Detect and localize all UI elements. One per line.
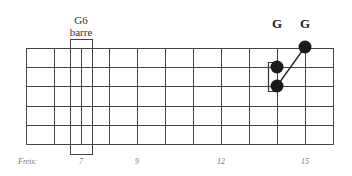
finger-dot [271, 61, 284, 74]
fret-number-7: 7 [79, 157, 84, 166]
fretboard-diagram: G6 barre G G Frets: 7 9 12 15 [0, 0, 352, 176]
note-label-g-2: G [300, 16, 310, 31]
barre-label-chord: G6 [74, 14, 88, 26]
note-label-g-1: G [272, 16, 282, 31]
strings [26, 49, 334, 145]
finger-dot [299, 41, 312, 54]
frets-label: Frets: [17, 157, 38, 166]
fret-number-15: 15 [301, 157, 309, 166]
fret-lines [27, 48, 334, 145]
fret-number-12: 12 [217, 157, 225, 166]
fret-number-9: 9 [135, 157, 139, 166]
finger-dot [271, 80, 284, 93]
barre-label-text: barre [70, 26, 93, 38]
